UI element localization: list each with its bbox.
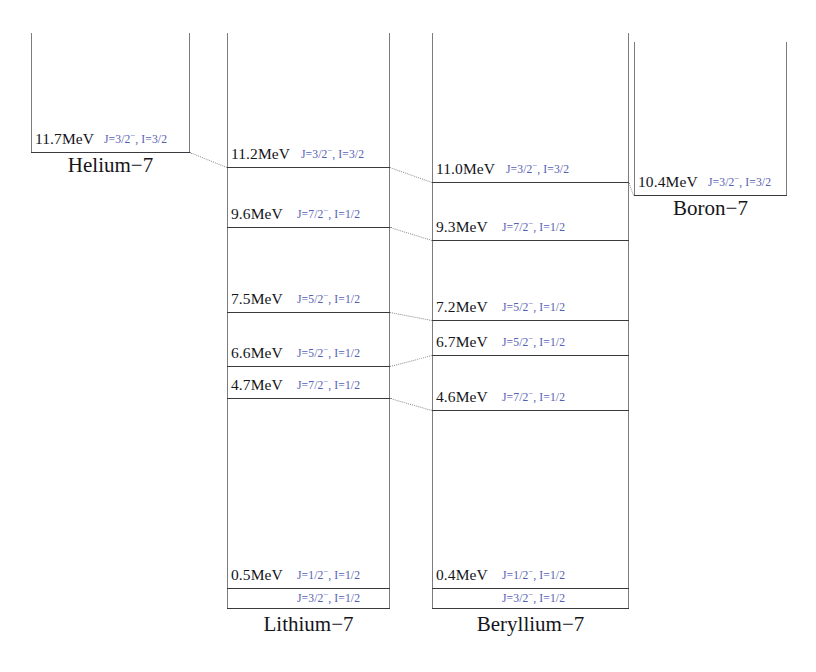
column-lithium-7: 11.2MeVJ=3/2−, I=3/29.6MeVJ=7/2−, I=1/27… bbox=[227, 33, 390, 608]
quantum-numbers-be7-4p6: J=7/2−, I=1/2 bbox=[502, 392, 565, 404]
element-caption-beryllium-7: Beryllium−7 bbox=[432, 614, 629, 635]
quantum-numbers-be7-6p7: J=5/2−, I=1/2 bbox=[502, 337, 565, 349]
quantum-numbers-li7-9p6: J=7/2−, I=1/2 bbox=[297, 209, 360, 221]
quantum-numbers-be7-9p3: J=7/2−, I=1/2 bbox=[502, 222, 565, 234]
column-helium-7-left-rail bbox=[31, 33, 32, 152]
energy-level-figure: 11.7MeVJ=3/2−, I=3/2Helium−711.2MeVJ=3/2… bbox=[0, 0, 816, 672]
energy-label-be7-6p7: 6.7MeV bbox=[436, 334, 488, 350]
energy-label-li7-7p5: 7.5MeV bbox=[231, 291, 283, 307]
quantum-numbers-li7-6p6: J=5/2−, I=1/2 bbox=[297, 348, 360, 360]
energy-label-be7-11p0: 11.0MeV bbox=[436, 161, 495, 177]
quantum-numbers-b7-gs: J=3/2−, I=3/2 bbox=[708, 177, 771, 189]
column-lithium-7-right-rail bbox=[389, 33, 390, 608]
element-caption-lithium-7: Lithium−7 bbox=[227, 614, 390, 635]
energy-label-li7-11p2: 11.2MeV bbox=[231, 146, 290, 162]
quantum-numbers-be7-0p4: J=1/2−, I=1/2 bbox=[502, 570, 565, 582]
energy-label-li7-0p5: 0.5MeV bbox=[231, 567, 283, 583]
quantum-numbers-be7-gs: J=3/2−, I=1/2 bbox=[502, 593, 565, 605]
energy-label-be7-9p3: 9.3MeV bbox=[436, 219, 488, 235]
energy-label-be7-0p4: 0.4MeV bbox=[436, 567, 488, 583]
column-beryllium-7: 11.0MeVJ=3/2−, I=3/29.3MeVJ=7/2−, I=1/27… bbox=[432, 33, 629, 608]
column-lithium-7-left-rail bbox=[227, 33, 228, 608]
level-line-li7-6p6 bbox=[227, 366, 390, 367]
energy-label-b7-gs: 10.4MeV bbox=[638, 174, 698, 190]
column-boron-7: 10.4MeVJ=3/2−, I=3/2 bbox=[634, 42, 787, 195]
conn-li-be-11-dotted-line bbox=[390, 167, 432, 183]
column-boron-7-left-rail bbox=[634, 42, 635, 195]
energy-label-be7-7p2: 7.2MeV bbox=[436, 299, 488, 315]
conn-li-be-7-dotted-line bbox=[390, 312, 432, 321]
quantum-numbers-li7-gs: J=3/2−, I=1/2 bbox=[297, 593, 360, 605]
conn-li-be-6-dotted-line bbox=[390, 355, 432, 367]
conn-he-li-dotted-line bbox=[190, 152, 227, 168]
level-line-be7-gs bbox=[432, 608, 629, 609]
level-line-li7-9p6 bbox=[227, 227, 390, 228]
quantum-numbers-li7-0p5: J=1/2−, I=1/2 bbox=[297, 570, 360, 582]
column-helium-7: 11.7MeVJ=3/2−, I=3/2 bbox=[31, 33, 190, 152]
energy-label-be7-4p6: 4.6MeV bbox=[436, 389, 488, 405]
level-line-be7-4p6 bbox=[432, 410, 629, 411]
level-line-be7-6p7 bbox=[432, 355, 629, 356]
quantum-numbers-li7-4p7: J=7/2−, I=1/2 bbox=[297, 380, 360, 392]
quantum-numbers-be7-11p0: J=3/2−, I=3/2 bbox=[506, 164, 569, 176]
quantum-numbers-be7-7p2: J=5/2−, I=1/2 bbox=[502, 302, 565, 314]
level-line-be7-7p2 bbox=[432, 320, 629, 321]
level-line-be7-11p0 bbox=[432, 182, 629, 183]
energy-label-li7-6p6: 6.6MeV bbox=[231, 345, 283, 361]
energy-label-li7-4p7: 4.7MeV bbox=[231, 377, 283, 393]
element-caption-boron-7: Boron−7 bbox=[634, 198, 787, 219]
level-line-li7-7p5 bbox=[227, 312, 390, 313]
level-line-li7-gs bbox=[227, 608, 390, 609]
column-helium-7-right-rail bbox=[189, 33, 190, 152]
column-boron-7-right-rail bbox=[786, 42, 787, 195]
level-line-li7-11p2 bbox=[227, 167, 390, 168]
quantum-numbers-li7-7p5: J=5/2−, I=1/2 bbox=[297, 294, 360, 306]
quantum-numbers-li7-11p2: J=3/2−, I=3/2 bbox=[301, 149, 364, 161]
level-line-be7-9p3 bbox=[432, 240, 629, 241]
energy-label-he7-gs: 11.7MeV bbox=[35, 131, 94, 147]
element-caption-helium-7: Helium−7 bbox=[31, 155, 190, 176]
level-line-li7-4p7 bbox=[227, 398, 390, 399]
energy-label-li7-9p6: 9.6MeV bbox=[231, 206, 283, 222]
conn-li-be-9-dotted-line bbox=[390, 227, 432, 241]
level-line-li7-0p5 bbox=[227, 588, 390, 589]
quantum-numbers-he7-gs: J=3/2−, I=3/2 bbox=[104, 134, 167, 146]
conn-li-be-4-dotted-line bbox=[390, 398, 432, 411]
